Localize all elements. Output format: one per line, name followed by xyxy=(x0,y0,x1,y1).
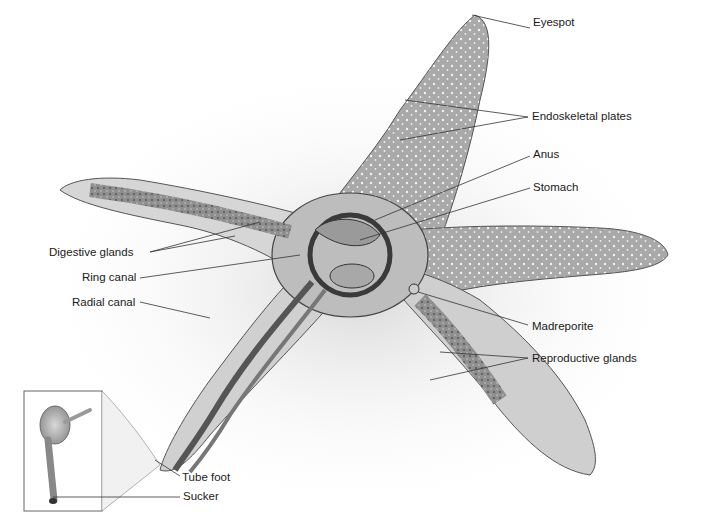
label-radial-canal: Radial canal xyxy=(72,297,135,309)
label-stomach: Stomach xyxy=(533,182,578,194)
madreporite-shape xyxy=(409,284,419,294)
starfish-illustration xyxy=(0,0,709,531)
starfish-diagram: Eyespot Endoskeletal plates Anus Stomach… xyxy=(0,0,709,531)
label-eyespot: Eyespot xyxy=(533,17,575,29)
label-ring-canal: Ring canal xyxy=(82,272,136,284)
label-anus: Anus xyxy=(533,149,559,161)
label-sucker: Sucker xyxy=(183,491,219,503)
label-tube-foot: Tube foot xyxy=(182,472,230,484)
label-madreporite: Madreporite xyxy=(532,321,593,333)
label-digestive-glands: Digestive glands xyxy=(49,247,133,259)
label-endoskeletal-plates: Endoskeletal plates xyxy=(532,111,632,123)
label-reproductive-glands: Reproductive glands xyxy=(532,353,637,365)
